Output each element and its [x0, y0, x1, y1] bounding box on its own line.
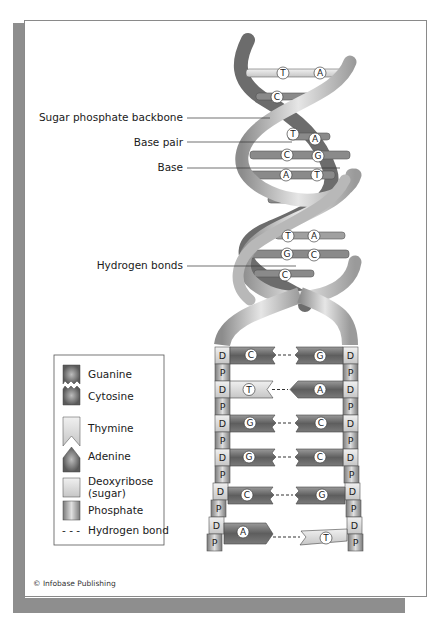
legend-adenine: Adenine: [88, 450, 131, 462]
label-base-pair: Base pair: [134, 136, 184, 148]
svg-text:D: D: [347, 452, 354, 463]
svg-text:D: D: [219, 418, 226, 429]
svg-text:A: A: [283, 170, 290, 180]
svg-text:D: D: [347, 350, 354, 361]
svg-text:G: G: [246, 452, 253, 462]
label-sugar-phosphate-backbone: Sugar phosphate backbone: [39, 111, 183, 123]
svg-text:T: T: [289, 129, 296, 139]
svg-text:A: A: [240, 527, 247, 537]
svg-text:D: D: [349, 486, 356, 497]
legend: Guanine Cytosine Thymine Adenine Deoxyri…: [54, 355, 169, 545]
svg-text:G: G: [317, 351, 324, 361]
left-backbone: D P D P D P D P D P D P: [207, 347, 230, 551]
svg-text:P: P: [220, 401, 226, 412]
label-hydrogen-bonds: Hydrogen bonds: [97, 259, 183, 271]
legend-hydrogen-bond: Hydrogen bond: [88, 524, 169, 536]
svg-text:G: G: [319, 490, 326, 500]
svg-text:A: A: [317, 68, 324, 78]
guanine-swatch-icon: [63, 365, 80, 384]
svg-text:D: D: [351, 520, 358, 531]
hydrogen-bond-symbol-icon: - - -: [62, 524, 80, 536]
svg-text:P: P: [220, 367, 226, 378]
svg-text:T: T: [245, 385, 252, 395]
cytosine-swatch-icon: [63, 386, 80, 405]
svg-text:C: C: [248, 350, 254, 360]
svg-text:A: A: [311, 231, 318, 241]
svg-text:P: P: [216, 503, 222, 514]
legend-phosphate: Phosphate: [88, 504, 143, 516]
copyright: © Infobase Publishing: [33, 579, 116, 588]
svg-text:G: G: [315, 151, 322, 161]
legend-guanine: Guanine: [88, 368, 132, 380]
svg-text:C: C: [318, 418, 324, 428]
svg-text:D: D: [219, 350, 226, 361]
legend-thymine: Thymine: [87, 422, 134, 434]
legend-deoxyribose: Deoxyribose: [88, 475, 153, 487]
ladder-arms: [222, 295, 350, 345]
svg-text:D: D: [347, 384, 354, 395]
legend-deoxyribose-sub: (sugar): [88, 487, 126, 499]
svg-text:P: P: [220, 435, 226, 446]
ladder-rungs: C G T A G C G C: [224, 347, 347, 545]
svg-text:P: P: [353, 537, 359, 548]
svg-text:D: D: [219, 452, 226, 463]
svg-text:P: P: [212, 537, 218, 548]
right-backbone: D P D P D P D P D P D P: [343, 347, 363, 551]
svg-text:G: G: [247, 418, 254, 428]
legend-cytosine: Cytosine: [88, 390, 134, 402]
svg-text:C: C: [282, 270, 288, 280]
svg-text:T: T: [313, 170, 320, 180]
svg-text:C: C: [317, 452, 323, 462]
svg-text:P: P: [351, 503, 357, 514]
svg-text:T: T: [284, 231, 291, 241]
svg-text:D: D: [213, 520, 220, 531]
svg-text:A: A: [312, 134, 319, 144]
svg-text:D: D: [347, 418, 354, 429]
svg-text:D: D: [219, 384, 226, 395]
svg-text:P: P: [348, 367, 354, 378]
svg-text:C: C: [244, 490, 250, 500]
svg-text:G: G: [284, 249, 291, 259]
svg-text:P: P: [348, 401, 354, 412]
ladder: D P D P D P D P D P D P D: [207, 347, 363, 551]
dna-diagram: T A C T A C G A T T A G C C Sugar phosph…: [0, 0, 442, 621]
svg-text:A: A: [317, 385, 324, 395]
label-base: Base: [157, 161, 183, 173]
svg-text:P: P: [220, 469, 226, 480]
svg-text:T: T: [279, 68, 286, 78]
svg-text:P: P: [349, 469, 355, 480]
svg-text:T: T: [322, 533, 329, 543]
svg-text:C: C: [311, 250, 317, 260]
svg-text:P: P: [348, 435, 354, 446]
deoxyribose-swatch-icon: [63, 478, 80, 497]
svg-text:C: C: [284, 150, 290, 160]
phosphate-swatch-icon: [63, 501, 80, 520]
svg-text:D: D: [217, 486, 224, 497]
svg-text:C: C: [274, 92, 280, 102]
